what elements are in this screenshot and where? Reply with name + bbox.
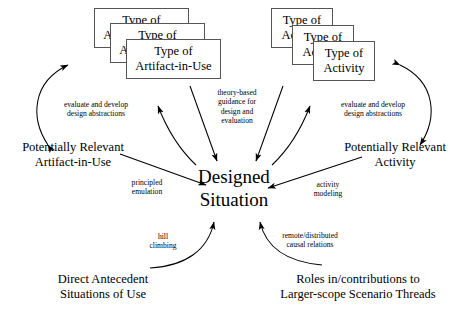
activity-type-front-line2: Activity xyxy=(324,61,365,76)
activity-modeling-line2: modeling xyxy=(297,189,359,198)
hill-climbing-line1: hill xyxy=(136,232,190,241)
artifact-type-front-line1: Type of xyxy=(154,44,192,59)
activity-node-line2: Activity xyxy=(330,155,460,170)
edge-label-principled-emulation: principled emulation xyxy=(116,178,178,197)
theory-based-line2: guidance for xyxy=(203,97,271,106)
evaluate-right-line1: evaluate and develop xyxy=(323,100,423,109)
edge-label-causal-relations: remote/distributed causal relations xyxy=(262,231,358,250)
hill-climbing-line2: climbing xyxy=(136,241,190,250)
theory-based-line4: evaluation xyxy=(203,116,271,125)
antecedent-node-line1: Direct Antecedent xyxy=(28,272,178,287)
node-potentially-relevant-artifact-in-use[interactable]: Potentially Relevant Artifact-in-Use xyxy=(8,140,138,171)
theory-based-line3: design and xyxy=(203,107,271,116)
edge-label-activity-modeling: activity modeling xyxy=(297,180,359,199)
activity-type-front-line1: Type of xyxy=(325,46,363,61)
edge-label-evaluate-develop-left: evaluate and develop design abstractions xyxy=(46,100,146,119)
theory-based-line1: theory-based xyxy=(203,88,271,97)
center-line1: Designed xyxy=(186,166,282,189)
evaluate-left-line2: design abstractions xyxy=(46,109,146,118)
center-node-designed-situation[interactable]: Designed Situation xyxy=(186,166,282,212)
activity-modeling-line1: activity xyxy=(297,180,359,189)
node-direct-antecedent-situations[interactable]: Direct Antecedent Situations of Use xyxy=(28,272,178,303)
diagram-canvas: Type of Artifact-in-Use Type of Artifact… xyxy=(0,0,468,313)
artifact-node-line2: Artifact-in-Use xyxy=(8,155,138,170)
edge-label-evaluate-develop-right: evaluate and develop design abstractions xyxy=(323,100,423,119)
activity-type-box-front[interactable]: Type of Activity xyxy=(313,41,375,81)
principled-emulation-line2: emulation xyxy=(116,187,178,196)
scenario-node-line2: Larger-scope Scenario Threads xyxy=(258,287,458,302)
edge-center-to-activity-types xyxy=(272,106,310,165)
artifact-type-front-line2: Artifact-in-Use xyxy=(135,59,211,74)
evaluate-left-line1: evaluate and develop xyxy=(46,100,146,109)
antecedent-node-line2: Situations of Use xyxy=(28,287,178,302)
edge-label-theory-based-guidance: theory-based guidance for design and eva… xyxy=(203,88,271,126)
edge-center-to-artifact-types xyxy=(158,106,196,165)
node-scenario-threads[interactable]: Roles in/contributions to Larger-scope S… xyxy=(258,272,458,303)
principled-emulation-line1: principled xyxy=(116,178,178,187)
causal-relations-line1: remote/distributed xyxy=(262,231,358,240)
artifact-node-line1: Potentially Relevant xyxy=(8,140,138,155)
node-potentially-relevant-activity[interactable]: Potentially Relevant Activity xyxy=(330,140,460,171)
evaluate-right-line2: design abstractions xyxy=(323,109,423,118)
artifact-type-box-front[interactable]: Type of Artifact-in-Use xyxy=(126,39,221,79)
edge-label-hill-climbing: hill climbing xyxy=(136,232,190,251)
causal-relations-line2: causal relations xyxy=(262,240,358,249)
center-line2: Situation xyxy=(186,189,282,212)
scenario-node-line1: Roles in/contributions to xyxy=(258,272,458,287)
activity-node-line1: Potentially Relevant xyxy=(330,140,460,155)
